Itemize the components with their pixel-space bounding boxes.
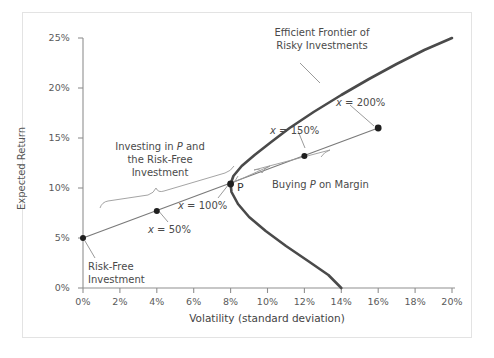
annotation-x-50: x = 50% [148, 223, 191, 236]
x-tick-18: 18% [398, 296, 432, 307]
y-axis-title: Expected Return [16, 119, 27, 219]
x-tick-16: 16% [361, 296, 395, 307]
x-tick-8: 8% [214, 296, 248, 307]
annotation-risk-free-investment: Risk-Free Investment [88, 260, 145, 286]
riskfree-label-line2: Investment [88, 274, 145, 285]
efficient-frontier-polyline [231, 38, 452, 288]
annotation-investing-in-p: Investing in P and the Risk-Free Investm… [96, 140, 224, 179]
riskfree-label-line1: Risk-Free [88, 261, 134, 272]
y-tick-5: 5% [36, 232, 70, 243]
annotation-buying-on-margin: Buying P on Margin [272, 178, 369, 191]
investing-label-line1b: and [183, 141, 205, 152]
y-tick-10: 10% [36, 182, 70, 193]
margin-label-a: Buying [272, 179, 310, 190]
annotation-x-200: x = 200% [336, 96, 385, 109]
x-tick-6: 6% [177, 296, 211, 307]
x-tick-12: 12% [287, 296, 321, 307]
y-axis-ticks [78, 38, 83, 288]
x-tick-14: 14% [324, 296, 358, 307]
y-tick-25: 25% [36, 32, 70, 43]
marker-risk-free [80, 235, 86, 241]
x-tick-4: 4% [140, 296, 174, 307]
investing-label-line3: Investment [132, 167, 189, 178]
marker-x200 [375, 125, 382, 132]
y-tick-20: 20% [36, 82, 70, 93]
leader-risk-free [85, 241, 95, 258]
marker-x150 [301, 153, 307, 159]
x200-value: = 200% [342, 97, 385, 108]
x-tick-2: 2% [103, 296, 137, 307]
frontier-label-line1: Efficient Frontier of [274, 27, 369, 38]
x-tick-0: 0% [66, 296, 100, 307]
investing-label-line2: the Risk-Free [127, 154, 192, 165]
marker-x50 [154, 208, 160, 214]
annotation-efficient-frontier: Efficient Frontier of Risky Investments [252, 26, 392, 52]
annotation-point-p: P [237, 181, 244, 194]
x50-value: = 50% [154, 224, 191, 235]
leader-efficient-frontier [300, 63, 320, 83]
annotation-x-100: x = 100% [178, 199, 227, 212]
x-tick-10: 10% [251, 296, 285, 307]
x-tick-20: 20% [435, 296, 469, 307]
x150-value: = 150% [276, 125, 319, 136]
y-tick-0: 0% [36, 282, 70, 293]
x-axis-title: Volatility (standard deviation) [167, 312, 367, 324]
margin-label-b: on Margin [316, 179, 369, 190]
marker-p [227, 181, 234, 188]
x-axis-ticks [83, 288, 452, 293]
frontier-label-line2: Risky Investments [276, 40, 367, 51]
y-tick-15: 15% [36, 132, 70, 143]
annotation-x-150: x = 150% [270, 124, 319, 137]
x100-value: = 100% [184, 200, 227, 211]
investing-label-line1a: Investing in [115, 141, 176, 152]
